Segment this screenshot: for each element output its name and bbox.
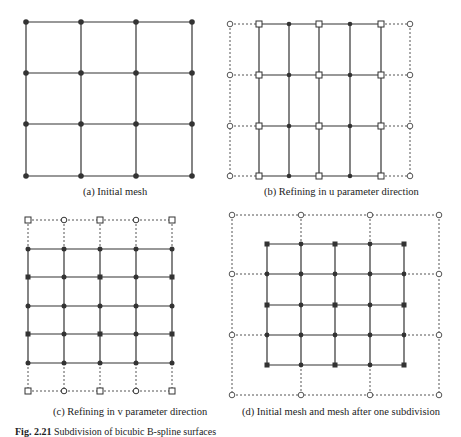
panel-a-mesh [23, 19, 195, 179]
subdivision-figure [0, 0, 461, 437]
caption-b: (b) Refining in u parameter direction [264, 186, 419, 197]
panel-d-mesh [229, 212, 442, 398]
figure-caption: Fig. 2.21 Subdivision of bicubic B-splin… [15, 426, 216, 437]
panel-c-mesh [25, 217, 175, 394]
caption-d: (d) Initial mesh and mesh after one subd… [242, 406, 440, 417]
panel-b-mesh [227, 21, 413, 179]
figure-label: Fig. 2.21 [15, 426, 51, 437]
caption-c: (c) Refining in v parameter direction [53, 406, 207, 417]
figure-caption-text: Subdivision of bicubic B-spline surfaces [54, 426, 216, 437]
caption-a: (a) Initial mesh [83, 186, 147, 197]
